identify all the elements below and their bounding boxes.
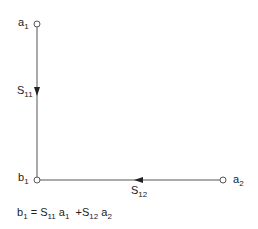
equation: b1 = S11 a1 +S12 a2: [17, 206, 112, 218]
eq-lhs-sub: 1: [23, 212, 27, 221]
arrow-left-icon: [134, 177, 143, 183]
eq-t2-s-sub: 12: [89, 212, 98, 221]
eq-t1-a-sub: 1: [65, 212, 69, 221]
label-sub: 11: [24, 90, 32, 99]
node-b1-label: b1: [18, 171, 29, 183]
edge-s12-label: S12: [131, 184, 147, 196]
label-sub: 2: [239, 179, 243, 188]
label-sub: 1: [24, 177, 28, 186]
node-a2-label: a2: [233, 173, 244, 185]
eq-sign: =: [31, 206, 37, 218]
label-sub: 12: [138, 190, 147, 199]
signal-flow-graph: [0, 0, 258, 229]
node-a1-label: a1: [18, 16, 29, 28]
eq-t2-a-sub: 2: [107, 212, 111, 221]
eq-t1-s-sub: 11: [47, 212, 55, 221]
edge-s11-label: S11: [17, 84, 33, 96]
node-a2: [220, 177, 226, 183]
arrow-down-icon: [34, 87, 40, 96]
node-a1: [34, 21, 40, 27]
label-sub: 1: [24, 22, 28, 31]
node-b1: [34, 177, 40, 183]
